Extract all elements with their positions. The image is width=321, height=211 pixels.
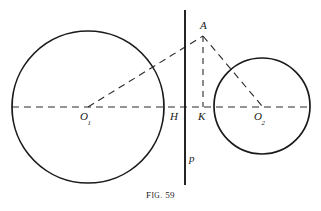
caption-number: 59 (165, 190, 175, 200)
segment-a-to-o2 (203, 36, 262, 106)
label-line-p: p (189, 153, 195, 164)
label-center-o2: O2 (254, 111, 265, 125)
label-point-h: H (170, 111, 178, 122)
label-point-k: K (198, 111, 205, 122)
figure-caption: FIG. 59 (0, 190, 321, 200)
label-center-o2-subscript: 2 (261, 119, 265, 127)
label-center-o1: O1 (80, 111, 91, 125)
label-center-o1-subscript: 1 (87, 119, 91, 127)
label-point-a: A (200, 20, 207, 31)
figure-container: A H K O1 O2 p FIG. 59 (0, 0, 321, 211)
caption-smallcaps: IG. (151, 191, 162, 200)
geometry-diagram (0, 0, 321, 211)
